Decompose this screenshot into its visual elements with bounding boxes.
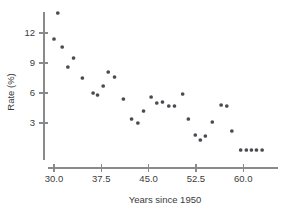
data-point — [193, 133, 197, 137]
data-point — [250, 148, 254, 152]
ticks-group: 3691230.037.545.052.560.0 — [24, 27, 252, 184]
chart-canvas: 3691230.037.545.052.560.0 Years since 19… — [0, 0, 284, 209]
data-point — [210, 120, 214, 124]
data-point — [149, 95, 153, 99]
data-point — [204, 134, 208, 138]
data-point — [91, 91, 95, 95]
data-point — [72, 56, 76, 60]
data-point — [225, 104, 229, 108]
x-axis-tick-label: 60.0 — [234, 173, 253, 184]
data-point — [167, 104, 171, 108]
data-point — [122, 97, 126, 101]
data-point — [142, 109, 146, 113]
data-point — [239, 148, 243, 152]
data-point — [56, 11, 60, 15]
x-axis-tick-label: 30.0 — [45, 173, 64, 184]
data-point — [181, 92, 185, 96]
axes-group — [44, 12, 278, 168]
data-point — [155, 101, 159, 105]
y-axis-tick-label: 3 — [30, 117, 35, 128]
x-axis-tick-label: 52.5 — [187, 173, 206, 184]
y-axis-tick-label: 12 — [24, 27, 35, 38]
data-point — [245, 148, 249, 152]
data-point — [60, 45, 64, 49]
data-points-group — [52, 11, 264, 152]
scatter-plot-figure: 3691230.037.545.052.560.0 Years since 19… — [0, 0, 284, 209]
y-axis-tick-label: 9 — [30, 57, 35, 68]
data-point — [130, 117, 134, 121]
data-point — [101, 84, 105, 88]
data-point — [230, 129, 234, 133]
data-point — [136, 121, 140, 125]
data-point — [255, 148, 259, 152]
x-axis-title: Years since 1950 — [129, 194, 202, 205]
data-point — [96, 93, 100, 97]
data-point — [52, 37, 56, 41]
data-point — [106, 70, 110, 74]
data-point — [66, 65, 70, 69]
data-point — [260, 148, 264, 152]
x-axis-tick-label: 45.0 — [139, 173, 158, 184]
data-point — [161, 100, 165, 104]
data-point — [113, 75, 117, 79]
data-point — [81, 76, 85, 80]
data-point — [219, 103, 223, 107]
x-axis-tick-label: 37.5 — [92, 173, 111, 184]
y-axis-title: Rate (%) — [5, 73, 16, 110]
data-point — [186, 117, 190, 121]
data-point — [173, 104, 177, 108]
y-axis-tick-label: 6 — [30, 87, 35, 98]
data-point — [198, 138, 202, 142]
